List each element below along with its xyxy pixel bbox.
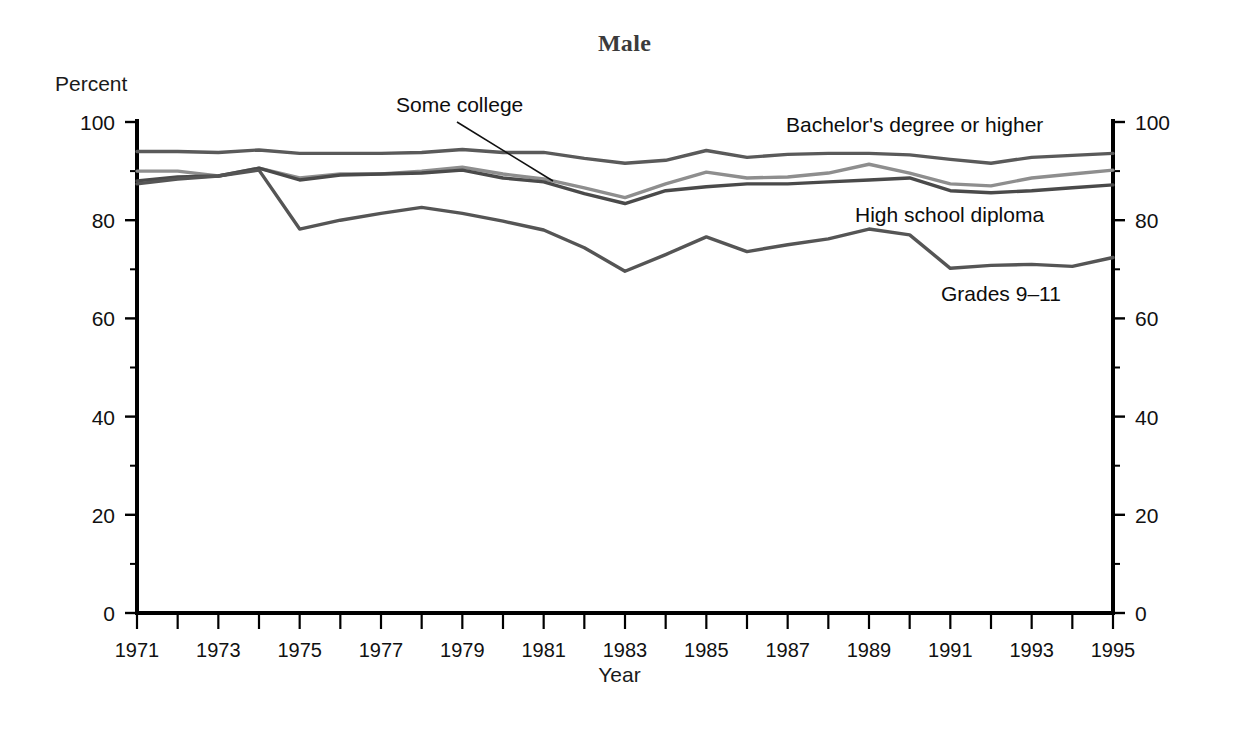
x-tick-label: 1973 (196, 639, 241, 661)
series-annotations: Some collegeBachelor's degree or higherH… (396, 93, 1061, 305)
x-tick-label: 1983 (603, 639, 648, 661)
x-tick-label: 1979 (440, 639, 485, 661)
y-tick-label-left: 0 (103, 602, 115, 625)
y-tick-label-right: 40 (1135, 406, 1158, 429)
bottom-axis: 1971197319751977197919811983198519871989… (115, 613, 1136, 661)
x-tick-label: 1989 (847, 639, 892, 661)
x-tick-label: 1991 (928, 639, 973, 661)
y-tick-label-left: 60 (92, 307, 115, 330)
series-line-0 (137, 150, 1113, 164)
y-tick-label-right: 80 (1135, 209, 1158, 232)
x-tick-label: 1981 (521, 639, 566, 661)
annotation-bachelors-degree: Bachelor's degree or higher (786, 113, 1043, 136)
x-axis-title: Year (0, 663, 1249, 687)
annotation-high-school-diploma: High school diploma (855, 203, 1044, 226)
right-axis: 020406080100 (1113, 111, 1170, 625)
y-tick-label-left: 40 (92, 406, 115, 429)
x-tick-label: 1985 (684, 639, 729, 661)
line-chart-plot: 020406080100 020406080100 19711973197519… (0, 0, 1249, 733)
y-axis-unit-label: Percent (55, 72, 127, 96)
x-tick-label: 1977 (359, 639, 404, 661)
x-axis-title-text: Year (598, 663, 640, 686)
x-tick-label: 1971 (115, 639, 160, 661)
x-tick-label: 1993 (1009, 639, 1054, 661)
chart-figure: Male Percent Year 020406080100 020406080… (0, 0, 1249, 733)
y-tick-label-right: 0 (1135, 602, 1147, 625)
chart-title: Male (0, 30, 1249, 57)
x-tick-label: 1995 (1091, 639, 1136, 661)
y-tick-label-right: 100 (1135, 111, 1170, 134)
x-tick-label: 1975 (277, 639, 322, 661)
y-tick-label-left: 80 (92, 209, 115, 232)
y-tick-label-left: 100 (80, 111, 115, 134)
annotation-some-college: Some college (396, 93, 523, 116)
x-tick-label: 1987 (765, 639, 810, 661)
y-tick-label-left: 20 (92, 504, 115, 527)
y-tick-label-right: 60 (1135, 307, 1158, 330)
left-axis: 020406080100 (80, 111, 137, 625)
y-tick-label-right: 20 (1135, 504, 1158, 527)
annotation-grades-9-11: Grades 9–11 (941, 282, 1061, 305)
